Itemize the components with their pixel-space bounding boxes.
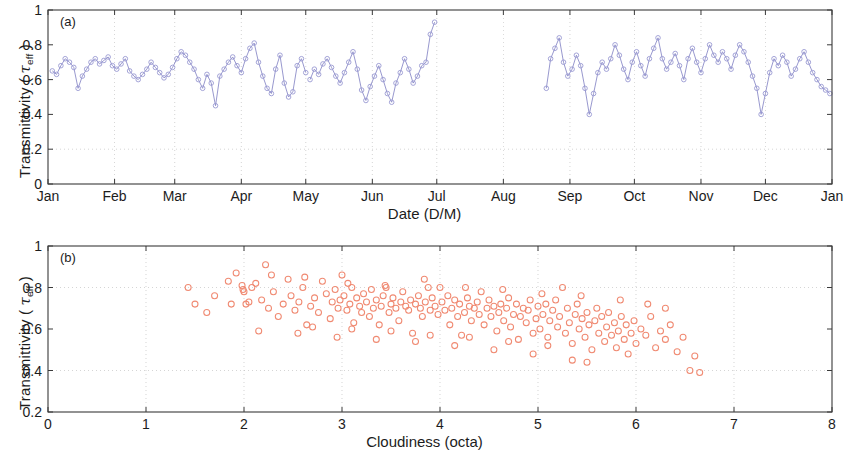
panel-b-xtick-3: 3: [338, 416, 346, 432]
panel-b-scatter-point: [359, 309, 365, 315]
panel-a-xtick-Feb-1: Feb: [103, 188, 127, 204]
panel-b-xtick-4: 4: [436, 416, 444, 432]
panel-b-scatter-point: [347, 301, 353, 307]
panel-b-scatter-point: [476, 311, 482, 317]
panel-b: Transmittivity ( τeff ) (b) 0123456780.2…: [0, 228, 849, 460]
panel-b-scatter-point: [501, 318, 507, 324]
panel-b-scatter-point: [604, 324, 610, 330]
panel-a-marker: [50, 69, 55, 74]
panel-b-scatter-point: [339, 272, 345, 278]
panel-b-scatter-point: [357, 303, 363, 309]
panel-b-scatter-point: [481, 322, 487, 328]
panel-b-scatter-point: [364, 299, 370, 305]
panel-b-scatter-point: [449, 305, 455, 311]
panel-b-scatter-point: [459, 332, 465, 338]
panel-a-xtick-Nov-10: Nov: [689, 188, 714, 204]
panel-a-line-3: [546, 38, 830, 115]
panel-b-scatter-point: [204, 309, 210, 315]
panel-b-scatter-point: [557, 314, 563, 320]
panel-a-xtick-May-4: May: [293, 188, 319, 204]
panel-b-scatter-point: [584, 359, 590, 365]
panel-b-scatter-point: [295, 330, 301, 336]
panel-b-scatter-point: [562, 330, 568, 336]
panel-b-scatter-point: [658, 328, 664, 334]
panel-b-scatter-point: [341, 293, 347, 299]
panel-b-scatter-point: [323, 291, 329, 297]
panel-b-scatter-point: [406, 307, 412, 313]
panel-b-scatter-point: [582, 334, 588, 340]
panel-b-scatter-point: [692, 353, 698, 359]
panel-b-scatter-point: [569, 357, 575, 363]
panel-b-scatter-point: [545, 334, 551, 340]
panel-b-scatter-point: [579, 316, 585, 322]
panel-b-scatter-point: [618, 314, 624, 320]
panel-a: Transmittivity ( τeff ) (a) JanFebMarApr…: [0, 0, 849, 228]
panel-b-scatter-point: [602, 338, 608, 344]
panel-b-scatter-point: [403, 303, 409, 309]
panel-b-scatter-point: [643, 332, 649, 338]
panel-b-scatter-point: [344, 307, 350, 313]
panel-b-scatter-point: [442, 307, 448, 313]
panel-b-scatter-point: [319, 278, 325, 284]
panel-b-scatter-point: [680, 334, 686, 340]
panel-b-scatter-point: [373, 297, 379, 303]
panel-b-scatter-point: [474, 299, 480, 305]
panel-b-scatter-point: [376, 322, 382, 328]
panel-b-scatter-point: [304, 322, 310, 328]
panel-b-scatter-point: [288, 293, 294, 299]
panel-b-scatter-point: [572, 311, 578, 317]
panel-b-scatter-point: [486, 297, 492, 303]
panel-b-scatter-point: [393, 305, 399, 311]
panel-b-scatter-point: [589, 347, 595, 353]
panel-b-scatter-point: [334, 334, 340, 340]
panel-b-xtick-8: 8: [828, 416, 836, 432]
panel-b-scatter-point: [422, 299, 428, 305]
panel-b-scatter-point: [400, 289, 406, 295]
panel-b-scatter-point: [555, 324, 561, 330]
panel-b-scatter-point: [625, 351, 631, 357]
panel-b-xtick-1: 1: [142, 416, 150, 432]
panel-b-scatter-point: [631, 318, 637, 324]
panel-b-scatter-point: [547, 318, 553, 324]
panel-b-scatter-point: [390, 295, 396, 301]
panel-b-scatter-point: [574, 301, 580, 307]
figure-root: Transmittivity ( τeff ) (a) JanFebMarApr…: [0, 0, 849, 460]
panel-a-x-axis-label: Date (D/M): [0, 205, 849, 222]
panel-b-scatter-point: [263, 262, 269, 268]
panel-b-scatter-point: [361, 291, 367, 297]
panel-b-scatter-point: [674, 349, 680, 355]
panel-b-ytick-0: 0.2: [23, 404, 43, 420]
panel-b-scatter-point: [569, 341, 575, 347]
panel-b-scatter-point: [432, 303, 438, 309]
panel-b-xtick-7: 7: [730, 416, 738, 432]
panel-b-scatter-point: [592, 318, 598, 324]
panel-b-scatter-point: [253, 280, 259, 286]
panel-b-scatter-point: [594, 305, 600, 311]
panel-b-scatter-point: [466, 334, 472, 340]
panel-b-scatter-point: [378, 303, 384, 309]
panel-b-scatter-point: [419, 314, 425, 320]
panel-b-scatter-point: [351, 320, 357, 326]
panel-b-scatter-point: [275, 314, 281, 320]
panel-b-scatter-point: [504, 305, 510, 311]
panel-a-ytick-2: 0.4: [23, 106, 43, 122]
panel-b-scatter-point: [345, 280, 351, 286]
panel-b-scatter-point: [553, 297, 559, 303]
panel-a-axes-frame: [48, 10, 832, 184]
panel-b-scatter-point: [527, 297, 533, 303]
panel-b-scatter-point: [447, 322, 453, 328]
panel-b-scatter-point: [452, 343, 458, 349]
panel-b-scatter-point: [586, 322, 592, 328]
panel-b-scatter-point: [609, 332, 615, 338]
panel-b-scatter-point: [327, 316, 333, 322]
panel-b-scatter-point: [239, 282, 245, 288]
panel-b-scatter-point: [413, 338, 419, 344]
panel-b-scatter-point: [667, 322, 673, 328]
panel-a-xtick-Jul-6: Jul: [428, 188, 446, 204]
panel-b-scatter-point: [335, 305, 341, 311]
panel-a-ytick-0: 0: [34, 176, 42, 192]
panel-b-scatter-point: [530, 351, 536, 357]
panel-b-scatter-point: [648, 314, 654, 320]
panel-b-scatter-point: [506, 295, 512, 301]
panel-b-scatter-point: [464, 295, 470, 301]
